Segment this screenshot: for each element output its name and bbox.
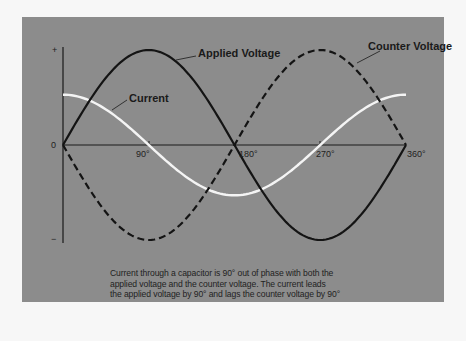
applied-leader-line xyxy=(176,56,196,60)
caption-line-3: the applied voltage by 90° and lags the … xyxy=(110,289,410,300)
y-minus-label: − xyxy=(51,234,56,244)
x-tick-90-label: 90° xyxy=(136,149,150,159)
x-tick-270-label: 270° xyxy=(316,149,335,159)
current-leader-line xyxy=(112,100,127,110)
y-zero-label: 0 xyxy=(51,140,56,150)
x-tick-360-label: 360° xyxy=(407,149,426,159)
current-label: Current xyxy=(129,92,169,104)
counter-voltage-label: Counter Voltage xyxy=(368,40,452,52)
applied-voltage-label: Applied Voltage xyxy=(198,47,280,59)
y-plus-label: + xyxy=(52,45,57,55)
x-tick-180-label: 180° xyxy=(239,149,258,159)
caption-line-2: applied voltage and the counter voltage.… xyxy=(110,279,410,290)
figure-caption: Current through a capacitor is 90° out o… xyxy=(110,268,410,300)
counter-leader-line xyxy=(357,51,380,63)
caption-line-1: Current through a capacitor is 90° out o… xyxy=(110,268,410,279)
